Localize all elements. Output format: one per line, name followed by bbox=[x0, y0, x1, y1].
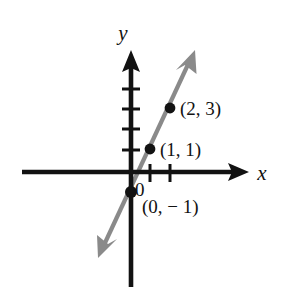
data-point-2-3 bbox=[165, 103, 176, 114]
y-axis-label: y bbox=[116, 21, 128, 45]
point-label-1-1: (1, 1) bbox=[160, 139, 201, 161]
x-axis-label: x bbox=[256, 161, 267, 185]
coordinate-plane-svg: y x 0 (2, 3) (1, 1) (0, − 1) bbox=[0, 0, 287, 298]
data-point-1-1 bbox=[145, 144, 156, 155]
point-label-0-neg1: (0, − 1) bbox=[142, 196, 199, 218]
point-label-2-3: (2, 3) bbox=[180, 98, 221, 120]
graph-figure: y x 0 (2, 3) (1, 1) (0, − 1) bbox=[0, 0, 287, 298]
